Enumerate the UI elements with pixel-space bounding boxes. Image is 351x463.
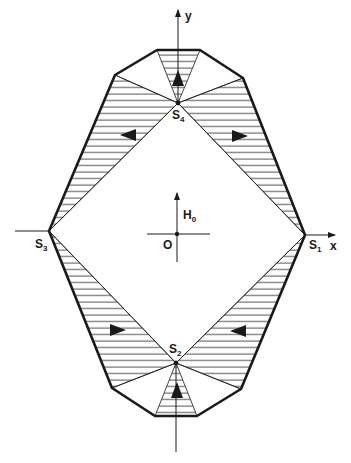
region-lower-left (49, 231, 176, 388)
s1-label: S1 (309, 238, 322, 254)
s2-label: S2 (169, 342, 182, 358)
point-s2-dot (174, 361, 179, 366)
point-s4-dot (176, 101, 181, 106)
s4-label: S4 (172, 108, 185, 124)
origin-dot (175, 232, 179, 236)
y-axis-label: y (185, 9, 192, 23)
region-lower-right (176, 235, 305, 389)
diagram-canvas: y x O H0 S4 S2 S3 S1 (0, 0, 351, 463)
s3-label: S3 (35, 237, 48, 253)
region-upper-left (49, 75, 178, 231)
region-upper-right (178, 78, 305, 235)
h0-label: H0 (183, 208, 197, 224)
origin-label: O (163, 238, 172, 252)
x-axis-label: x (330, 239, 337, 253)
